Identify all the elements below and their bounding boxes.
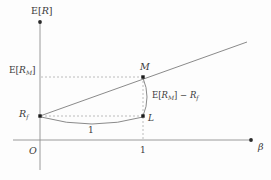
diagram-canvas (0, 0, 271, 180)
y-axis-label-prefix: E[ (31, 5, 42, 16)
premium-prefix: E[ (152, 90, 162, 100)
y-axis-label-var: R (42, 5, 49, 16)
risk-premium-brace (143, 78, 147, 116)
premium-sub2: f (196, 94, 198, 101)
premium-sub1: M (168, 94, 174, 101)
erm-subscript: M (26, 69, 32, 76)
y-tick-label-erm: E[RM] (9, 66, 36, 75)
risk-premium-annotation: E[RM] − Rf (152, 91, 199, 100)
point-marker-rf (38, 114, 41, 117)
point-label-l: L (148, 114, 154, 123)
y-tick-label-risk-free: Rf (19, 109, 28, 119)
x-tick-label-one: 1 (140, 146, 146, 155)
point-label-m: M (140, 62, 150, 72)
y-axis-label: E[R] (31, 6, 53, 16)
origin-label-text: O (29, 145, 37, 156)
point-label-l-text: L (148, 113, 154, 123)
erm-var: R (19, 65, 26, 75)
origin-label: O (29, 146, 37, 156)
erm-prefix: E[ (9, 65, 19, 75)
point-marker-l (141, 114, 144, 117)
y-axis-arrow-head (38, 20, 42, 24)
x-axis-arrow-head (249, 138, 253, 142)
premium-var1: R (162, 90, 168, 100)
y-axis-label-suffix: ] (49, 5, 53, 16)
figure-container: E[R] E[RM] Rf M L E[RM] − Rf 1 1 O β (0, 0, 271, 180)
beta-unit-label: 1 (88, 126, 94, 135)
point-marker-m (141, 75, 144, 78)
x-axis-label: β (258, 142, 264, 152)
premium-minus: ] − (174, 90, 190, 100)
beta-unit-arc (41, 117, 143, 124)
point-label-m-text: M (140, 61, 150, 72)
erm-suffix: ] (32, 65, 36, 75)
